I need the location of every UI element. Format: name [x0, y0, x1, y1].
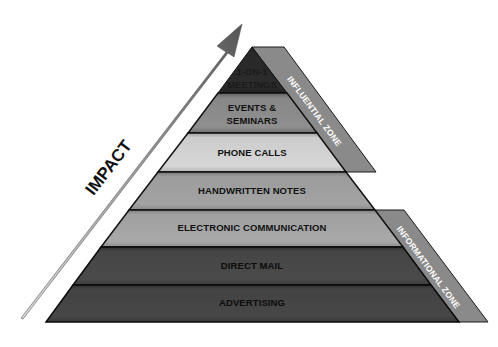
layer-direct-mail: DIRECT MAIL: [73, 247, 431, 285]
layer-advertising: ADVERTISING: [46, 285, 459, 322]
layer-handwritten-notes: HANDWRITTEN NOTES: [129, 172, 375, 210]
layer-label: PHONE CALLS: [217, 147, 286, 158]
layer-label: ELECTRONIC COMMUNICATION: [178, 222, 327, 233]
pyramid-layers: 1-ON-1 MEETINGS EVENTS & SEMINARS PHONE …: [46, 47, 459, 322]
layer-label-line2: SEMINARS: [227, 115, 278, 126]
pyramid-diagram: IMPACT INFLUENTIAL ZONE INFORMATIONAL ZO…: [0, 0, 498, 347]
impact-axis-label: IMPACT: [82, 136, 136, 199]
layer-label-line1: 1-ON-1: [236, 66, 268, 77]
layer-electronic-communication: ELECTRONIC COMMUNICATION: [101, 210, 403, 247]
layer-label: HANDWRITTEN NOTES: [198, 185, 306, 196]
layer-label: ADVERTISING: [219, 297, 285, 308]
layer-label-line1: EVENTS &: [228, 102, 276, 113]
layer-phone-calls: PHONE CALLS: [158, 133, 346, 172]
layer-label: DIRECT MAIL: [221, 260, 283, 271]
layer-label-line2: MEETINGS: [227, 79, 277, 90]
